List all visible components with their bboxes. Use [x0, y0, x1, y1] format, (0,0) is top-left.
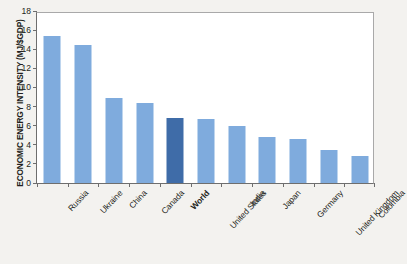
bar: [197, 119, 214, 183]
bar-slot: [160, 13, 191, 183]
bar-slot: [68, 13, 99, 183]
bar: [105, 98, 122, 183]
x-axis-tick-mark: [129, 183, 130, 187]
x-axis-label: World: [188, 188, 211, 212]
y-axis-tick-label: 2: [26, 158, 31, 170]
bar-slot: [129, 13, 160, 183]
bar-slot: [344, 13, 375, 183]
bar: [320, 150, 337, 183]
bar: [75, 45, 92, 183]
bar: [259, 137, 276, 183]
x-axis-tick-mark: [37, 183, 38, 187]
bar: [44, 36, 61, 183]
y-axis-tick-label: 16: [22, 24, 31, 36]
y-axis-tick-label: 12: [22, 62, 31, 74]
y-axis-tick-label: 0: [26, 177, 31, 189]
bar: [228, 126, 245, 183]
x-axis-tick-mark: [252, 183, 253, 187]
x-axis-label: Japan: [280, 188, 303, 211]
y-axis-tick-mark: [33, 11, 37, 12]
x-axis-tick-mark: [191, 183, 192, 187]
x-axis-tick-mark: [98, 183, 99, 187]
bar-slot: [98, 13, 129, 183]
y-axis-tick-label: 8: [26, 101, 31, 113]
x-axis-label: Canada: [159, 188, 186, 216]
bar-slot: [37, 13, 68, 183]
x-axis-tick-mark: [314, 183, 315, 187]
x-axis-tick-mark: [221, 183, 222, 187]
x-axis-label: Germany: [315, 188, 345, 220]
x-axis-labels: RussiaUkraineChinaCanadaWorldUnited Stat…: [36, 188, 374, 260]
bar-slot: [283, 13, 314, 183]
y-axis-tick-label: 6: [26, 120, 31, 132]
x-axis-label: China: [126, 188, 148, 210]
bar-slot: [252, 13, 283, 183]
y-axis-tick-label: 14: [22, 43, 31, 55]
x-axis-tick-mark: [374, 183, 375, 187]
bar: [136, 103, 153, 183]
bar: [351, 156, 368, 183]
bar-series: [37, 13, 373, 183]
x-axis-tick-mark: [160, 183, 161, 187]
y-axis-tick-label: 10: [22, 81, 31, 93]
plot-area: 024681012141618: [36, 12, 374, 184]
x-axis-tick-mark: [344, 183, 345, 187]
y-axis-title: ECONOMIC ENERGY INTENSITY (MJ/$GDP): [15, 13, 25, 193]
bar-highlight: [167, 118, 184, 183]
x-axis-tick-mark: [68, 183, 69, 187]
y-axis-tick-label: 4: [26, 139, 31, 151]
bar: [290, 139, 307, 183]
x-axis-label: Russia: [66, 188, 90, 213]
bar-slot: [191, 13, 222, 183]
x-axis-label: Ukraine: [98, 188, 125, 215]
y-axis-tick-label: 18: [22, 5, 31, 17]
x-axis-tick-mark: [283, 183, 284, 187]
bar-slot: [314, 13, 345, 183]
bar-slot: [221, 13, 252, 183]
